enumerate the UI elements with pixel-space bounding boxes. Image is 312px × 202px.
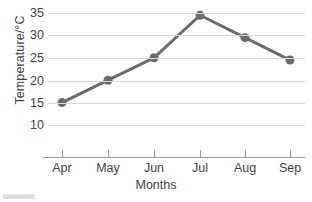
x-tick-label-aug: Aug <box>220 161 270 175</box>
y-tick-label-30: 30 <box>20 29 44 41</box>
x-tick-jul <box>200 150 201 157</box>
gridline-30 <box>48 35 305 36</box>
y-tick-label-25: 25 <box>20 52 44 64</box>
x-tick-aug <box>245 150 246 157</box>
gridline-15 <box>48 103 305 104</box>
data-point-sep <box>286 56 295 65</box>
temperature-line-chart: Temperature/°C 35 30 25 20 15 10 Apr May… <box>0 0 312 202</box>
x-tick-label-apr: Apr <box>37 161 87 175</box>
x-tick-jun <box>154 150 155 157</box>
x-tick-may <box>108 150 109 157</box>
y-tick-label-10: 10 <box>20 119 44 131</box>
x-tick-apr <box>62 150 63 157</box>
x-tick-sep <box>290 150 291 157</box>
gridline-20 <box>48 81 305 82</box>
gridline-35 <box>48 13 305 14</box>
x-tick-label-may: May <box>83 161 133 175</box>
y-tick-label-35: 35 <box>20 7 44 19</box>
x-tick-label-jun: Jun <box>129 161 179 175</box>
y-tick-label-15: 15 <box>20 97 44 109</box>
x-tick-label-sep: Sep <box>265 161 312 175</box>
gridline-25 <box>48 58 305 59</box>
gridline-10 <box>48 125 305 126</box>
y-tick-label-20: 20 <box>20 75 44 87</box>
x-tick-label-jul: Jul <box>175 161 225 175</box>
scan-artifact-fragment: ▄▄▄▄ <box>3 188 47 199</box>
x-axis-line <box>43 157 305 158</box>
